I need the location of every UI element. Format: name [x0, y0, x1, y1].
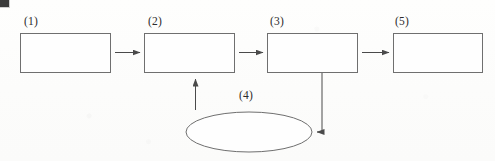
flow-diagram [0, 0, 495, 161]
node-label-2: (2) [148, 16, 162, 28]
node-label-1: (1) [24, 16, 38, 28]
edge-arrow-3-to-4 [317, 73, 322, 132]
node-box-1 [21, 34, 111, 73]
diagram-canvas: (1) (2) (3) (4) (5) [0, 0, 495, 161]
node-label-3: (3) [270, 16, 284, 28]
node-box-5 [394, 34, 483, 73]
node-ellipse-4 [186, 112, 312, 152]
node-label-5: (5) [395, 16, 409, 28]
node-label-4: (4) [239, 90, 253, 102]
node-box-2 [145, 34, 235, 73]
node-box-3 [268, 34, 358, 73]
